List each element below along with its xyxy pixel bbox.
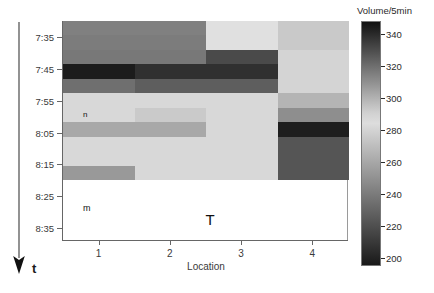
- colorbar-tick: [381, 66, 385, 67]
- colorbar-tick-label: 240: [386, 188, 402, 199]
- heatmap-cell: [278, 137, 350, 151]
- y-axis-tick-label: 8:05: [36, 127, 55, 138]
- colorbar-tick-label: 340: [386, 28, 402, 39]
- y-axis-tick: [57, 164, 63, 165]
- colorbar-tick-label: 300: [386, 92, 402, 103]
- y-axis-tick-label: 8:15: [36, 159, 55, 170]
- plot-axes: 7:357:457:558:058:158:258:35 1234 nmT Lo…: [62, 21, 348, 241]
- heatmap-column-1: [63, 21, 135, 180]
- y-axis-tick: [57, 37, 63, 38]
- heatmap-cell: [206, 21, 278, 35]
- colorbar: 340320300280260240220200: [361, 21, 381, 266]
- y-axis-tick-label: 8:35: [36, 222, 55, 233]
- heatmap-cell: [278, 151, 350, 165]
- colorbar-tick: [381, 34, 385, 35]
- heatmap-figure: t 7:357:457:558:058:158:258:35 1234 nmT …: [0, 0, 434, 293]
- colorbar-tick: [381, 194, 385, 195]
- time-axis-label: t: [32, 262, 36, 275]
- y-axis-tick: [57, 133, 63, 134]
- x-axis-tick: [312, 240, 313, 245]
- heatmap-cell: [278, 79, 350, 93]
- heatmap-grid: [63, 21, 349, 180]
- heatmap-cell: [135, 21, 207, 35]
- heatmap-cell: [63, 93, 135, 107]
- y-axis-tick-label: 7:35: [36, 32, 55, 43]
- heatmap-cell: [135, 64, 207, 78]
- colorbar-tick: [381, 226, 385, 227]
- colorbar-tick-label: 260: [386, 156, 402, 167]
- colorbar-title: Volume/5min: [357, 5, 412, 16]
- heatmap-cell: [135, 93, 207, 107]
- heatmap-column-2: [135, 21, 207, 180]
- heatmap-cell: [63, 79, 135, 93]
- y-axis-tick: [57, 196, 63, 197]
- x-axis-tick-label: 2: [167, 248, 173, 259]
- colorbar-tick-label: 200: [386, 252, 402, 263]
- heatmap-cell: [278, 108, 350, 122]
- colorbar-tick: [381, 162, 385, 163]
- plot-annotation-n: n: [83, 111, 87, 119]
- heatmap-cell: [135, 79, 207, 93]
- heatmap-cell: [135, 151, 207, 165]
- plot-annotation-T: T: [206, 212, 215, 227]
- heatmap-cell: [206, 79, 278, 93]
- heatmap-cell: [278, 166, 350, 180]
- heatmap-cell: [135, 50, 207, 64]
- y-axis-tick-label: 7:45: [36, 64, 55, 75]
- heatmap-cell: [278, 35, 350, 49]
- heatmap-cell: [135, 122, 207, 136]
- heatmap-cell: [206, 151, 278, 165]
- heatmap-cell: [278, 50, 350, 64]
- heatmap-cell: [278, 21, 350, 35]
- plot-annotation-m: m: [83, 204, 91, 213]
- y-axis-tick: [57, 69, 63, 70]
- heatmap-cell: [278, 122, 350, 136]
- colorbar-tick-label: 280: [386, 124, 402, 135]
- heatmap-cell: [206, 50, 278, 64]
- heatmap-cell: [206, 122, 278, 136]
- heatmap-cell: [63, 166, 135, 180]
- heatmap-cell: [206, 93, 278, 107]
- heatmap-cell: [206, 137, 278, 151]
- heatmap-cell: [206, 64, 278, 78]
- heatmap-cell: [135, 166, 207, 180]
- x-axis-tick-label: 3: [238, 248, 244, 259]
- heatmap-column-4: [278, 21, 350, 180]
- y-axis-tick: [57, 228, 63, 229]
- colorbar-tick-label: 220: [386, 220, 402, 231]
- x-axis-tick-label: 4: [310, 248, 316, 259]
- heatmap-cell: [206, 35, 278, 49]
- heatmap-cell: [63, 21, 135, 35]
- heatmap-cell: [135, 35, 207, 49]
- colorbar-tick-label: 320: [386, 60, 402, 71]
- heatmap-cell: [278, 93, 350, 107]
- heatmap-cell: [206, 166, 278, 180]
- colorbar-tick: [381, 258, 385, 259]
- heatmap-cell: [135, 108, 207, 122]
- x-axis-tick: [241, 240, 242, 245]
- colorbar-tick: [381, 130, 385, 131]
- x-axis-tick: [170, 240, 171, 245]
- x-axis-title: Location: [187, 261, 225, 272]
- time-direction-arrow: [10, 22, 28, 274]
- heatmap-cell: [135, 137, 207, 151]
- x-axis-tick: [99, 240, 100, 245]
- heatmap-cell: [63, 137, 135, 151]
- heatmap-cell: [63, 64, 135, 78]
- y-axis-tick: [57, 101, 63, 102]
- heatmap-cell: [63, 35, 135, 49]
- heatmap-cell: [63, 50, 135, 64]
- heatmap-column-3: [206, 21, 278, 180]
- heatmap-cell: [63, 122, 135, 136]
- heatmap-cell: [278, 64, 350, 78]
- y-axis-tick-label: 8:25: [36, 191, 55, 202]
- x-axis-tick-label: 1: [96, 248, 102, 259]
- colorbar-tick: [381, 98, 385, 99]
- heatmap-cell: [206, 108, 278, 122]
- heatmap-cell: [63, 151, 135, 165]
- y-axis-tick-label: 7:55: [36, 95, 55, 106]
- colorbar-gradient: [361, 21, 381, 266]
- heatmap-cell: [63, 108, 135, 122]
